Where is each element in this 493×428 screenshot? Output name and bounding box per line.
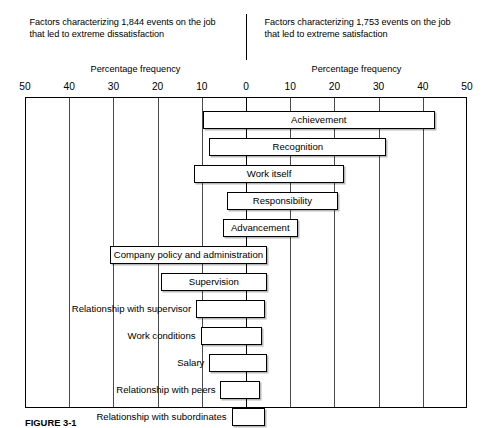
axis-titles: Percentage frequency Percentage frequenc… [25, 62, 467, 76]
bar-series: AchievementRecognitionWork itselfRespons… [26, 98, 466, 407]
bar-label: Work conditions [26, 327, 196, 345]
tick-label: 0 [243, 80, 249, 94]
tick-label: 50 [461, 80, 472, 94]
bar-row: Supervision [26, 269, 466, 296]
bar-row: Achievement [26, 107, 466, 134]
bar-row: Recognition [26, 134, 466, 161]
bar-row: Relationship with subordinates [26, 404, 466, 428]
figure-container: Factors characterizing 1,844 events on t… [0, 0, 493, 428]
bar[interactable] [201, 327, 263, 345]
tick-label: 20 [152, 80, 163, 94]
header-left: Factors characterizing 1,844 events on t… [25, 16, 246, 60]
tick-label: 20 [329, 80, 340, 94]
tick-label: 10 [196, 80, 207, 94]
plot-area: AchievementRecognitionWork itselfRespons… [25, 97, 467, 408]
satisfaction-caption: Factors characterizing 1,753 events on t… [265, 16, 463, 41]
bar[interactable] [209, 354, 266, 372]
tick-label: 30 [373, 80, 384, 94]
dissatisfaction-caption: Factors characterizing 1,844 events on t… [30, 16, 228, 41]
header-right: Factors characterizing 1,753 events on t… [246, 16, 467, 60]
bar-row: Work itself [26, 161, 466, 188]
bar-row: Relationship with peers [26, 377, 466, 404]
bar[interactable] [209, 138, 386, 156]
figure-caption: FIGURE 3-1 [25, 417, 77, 428]
bar-label: Relationship with supervisor [26, 300, 191, 318]
bar-row: Advancement [26, 215, 466, 242]
bar[interactable] [220, 381, 260, 399]
bar-label: Relationship with peers [26, 381, 215, 399]
bar[interactable] [223, 219, 298, 237]
bar[interactable] [110, 246, 267, 264]
bar[interactable] [203, 111, 435, 129]
axis-title-left: Percentage frequency [25, 62, 246, 76]
tick-label: 40 [64, 80, 75, 94]
bar[interactable] [227, 192, 338, 210]
tick-label: 50 [19, 80, 30, 94]
header-divider [246, 14, 247, 60]
bar[interactable] [194, 165, 344, 183]
bar[interactable] [161, 273, 267, 291]
bar-row: Relationship with supervisor [26, 296, 466, 323]
tick-label: 30 [108, 80, 119, 94]
bar-row: Responsibility [26, 188, 466, 215]
tick-label: 10 [285, 80, 296, 94]
tick-label: 40 [417, 80, 428, 94]
bar[interactable] [232, 408, 265, 426]
bar-row: Company policy and administration [26, 242, 466, 269]
bar-row: Work conditions [26, 323, 466, 350]
bar[interactable] [196, 300, 265, 318]
bar-label: Salary [26, 354, 204, 372]
bar-row: Salary [26, 350, 466, 377]
axis-title-right: Percentage frequency [246, 62, 467, 76]
x-axis-tick-labels: 504030201001020304050 [0, 80, 493, 94]
